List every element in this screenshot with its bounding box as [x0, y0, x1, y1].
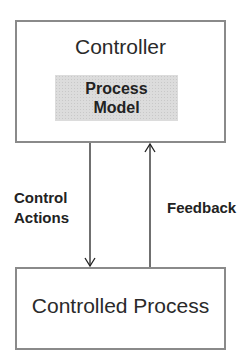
control-actions-line2: Actions: [14, 208, 69, 228]
controlled-process-box: Controlled Process: [15, 267, 226, 350]
feedback-label: Feedback: [167, 198, 236, 218]
controlled-process-title: Controlled Process: [17, 294, 224, 318]
control-actions-line1: Control: [14, 188, 69, 208]
control-actions-label: Control Actions: [14, 188, 69, 228]
